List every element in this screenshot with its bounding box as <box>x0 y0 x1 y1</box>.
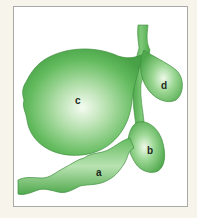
label-d: d <box>161 80 167 91</box>
label-c: c <box>75 95 81 106</box>
gallbladder-diagram: c d b a <box>0 0 197 218</box>
label-a: a <box>96 167 102 178</box>
lobe-c <box>23 49 142 155</box>
label-b: b <box>147 145 153 156</box>
lobe-d <box>141 50 183 102</box>
